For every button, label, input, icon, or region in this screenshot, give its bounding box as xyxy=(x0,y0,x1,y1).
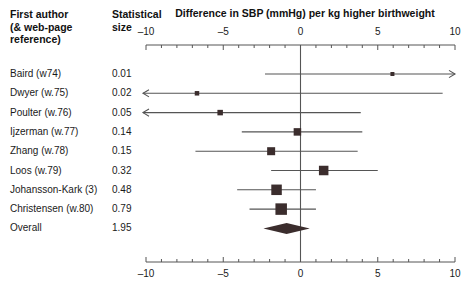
column-header-author-line3: reference) xyxy=(10,33,96,46)
axis-tick-label: –10 xyxy=(131,268,161,279)
effect-marker xyxy=(294,128,302,136)
study-label-poulter-w-76: Poulter (w.76) xyxy=(10,107,72,118)
study-size-ijzerman-w-77: 0.14 xyxy=(112,126,142,137)
effect-marker xyxy=(390,72,394,76)
study-label-ijzerman-w-77: Ijzerman (w.77) xyxy=(10,126,78,137)
study-size-poulter-w-76: 0.05 xyxy=(112,107,142,118)
column-header-author: First author (& web-page reference) xyxy=(10,8,96,46)
effect-marker xyxy=(195,91,200,96)
study-label-dwyer-w-75: Dwyer (w.75) xyxy=(10,87,68,98)
study-label-overall: Overall xyxy=(10,222,42,233)
axis-tick-label: –5 xyxy=(208,268,238,279)
effect-marker xyxy=(217,110,223,116)
study-size-baird-w74: 0.01 xyxy=(112,68,142,79)
axis-tick-label: 0 xyxy=(286,26,316,37)
axis-tick-label: 10 xyxy=(440,26,470,37)
study-label-johansson-kark-3: Johansson-Kark (3) xyxy=(10,184,97,195)
study-size-zhang-w-78: 0.15 xyxy=(112,145,142,156)
column-header-author-line2: (& web-page xyxy=(10,21,96,34)
effect-marker xyxy=(267,147,275,155)
study-size-johansson-kark-3: 0.48 xyxy=(112,184,142,195)
axis-tick-label: 0 xyxy=(286,268,316,279)
axis-tick-label: 5 xyxy=(363,268,393,279)
page-title: Difference in SBP (mmHg) per kg higher b… xyxy=(150,7,460,20)
effect-marker xyxy=(319,166,329,176)
study-size-loos-w-79: 0.32 xyxy=(112,165,142,176)
study-label-baird-w74: Baird (w74) xyxy=(10,68,61,79)
study-label-zhang-w-78: Zhang (w.78) xyxy=(10,145,68,156)
axis-tick-label: 5 xyxy=(363,26,393,37)
study-label-loos-w-79: Loos (w.79) xyxy=(10,165,62,176)
axis-tick-label: –5 xyxy=(208,26,238,37)
effect-marker xyxy=(271,185,282,196)
axis-tick-label: 10 xyxy=(440,268,470,279)
axis-tick-label: –10 xyxy=(131,26,161,37)
column-header-author-line1: First author xyxy=(10,8,96,21)
effect-marker xyxy=(275,203,287,215)
study-size-dwyer-w-75: 0.02 xyxy=(112,87,142,98)
study-label-christensen-w-80: Christensen (w.80) xyxy=(10,203,93,214)
forest-plot: First author (& web-page reference) Stat… xyxy=(0,0,470,293)
overall-diamond xyxy=(263,223,309,234)
study-size-christensen-w-80: 0.79 xyxy=(112,203,142,214)
study-size-overall: 1.95 xyxy=(112,222,142,233)
